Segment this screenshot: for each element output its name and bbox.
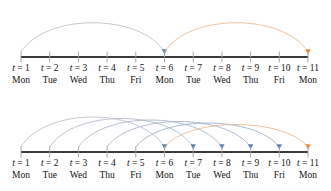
top-timeline xyxy=(21,23,310,63)
timestep-value: = 9 xyxy=(244,158,259,168)
timestep-value: = 1 xyxy=(15,158,30,168)
timestep-value: = 11 xyxy=(300,158,319,168)
timestep-value: = 7 xyxy=(187,63,202,73)
arc-curve xyxy=(21,23,165,52)
timestep-label: t = 11 xyxy=(288,62,328,74)
timestep-value: = 8 xyxy=(216,63,231,73)
timestep-value: = 6 xyxy=(158,63,173,73)
timestep-value: = 5 xyxy=(130,63,145,73)
timestep-value: = 8 xyxy=(216,158,231,168)
arc-curve xyxy=(165,125,309,148)
timestep-value: = 5 xyxy=(130,158,145,168)
timestep-value: = 6 xyxy=(158,158,173,168)
day-label: Mon xyxy=(288,169,328,181)
dependency-arc xyxy=(21,23,167,54)
timestep-value: = 7 xyxy=(187,158,202,168)
timestep-label: t = 11 xyxy=(288,157,328,169)
timestep-value: = 1 xyxy=(15,63,30,73)
timestep-value: = 3 xyxy=(72,63,87,73)
dependency-arc xyxy=(165,125,311,149)
timestep-value: = 11 xyxy=(300,63,319,73)
tick-label-group: t = 11Mon xyxy=(288,157,328,181)
timeline-figure: t = 1Mont = 2Tuet = 3Wedt = 4Thut = 5Fri… xyxy=(0,0,331,191)
timestep-value: = 3 xyxy=(72,158,87,168)
timestep-value: = 4 xyxy=(101,158,116,168)
bottom-timeline xyxy=(21,117,310,158)
dependency-arc xyxy=(165,23,311,54)
tick-label-group: t = 11Mon xyxy=(288,62,328,86)
timestep-value: = 4 xyxy=(101,63,116,73)
day-label: Mon xyxy=(288,74,328,86)
timestep-value: = 2 xyxy=(44,63,59,73)
arc-curve xyxy=(165,23,309,52)
timestep-value: = 9 xyxy=(244,63,259,73)
timestep-value: = 2 xyxy=(44,158,59,168)
